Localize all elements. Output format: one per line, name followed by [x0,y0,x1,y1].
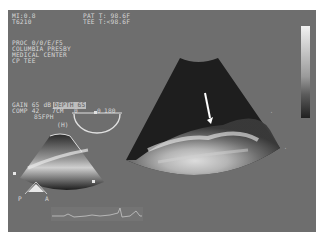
ecg-trace [51,207,143,221]
grayscale-bar [301,26,310,118]
reference-sector-image [20,134,104,190]
svg-text:·: · [270,109,273,115]
orientation-label-a: A [45,196,49,203]
ultrasound-screen: MI:0.8 T6210 PAT T: 98.6F TEE T:<98.6F P… [8,10,316,232]
image-graphics: · · [8,10,316,232]
orientation-label-p: P [18,196,22,203]
svg-text:·: · [284,145,287,151]
probe-angle-icon [72,111,122,133]
main-sector-image [126,58,280,175]
